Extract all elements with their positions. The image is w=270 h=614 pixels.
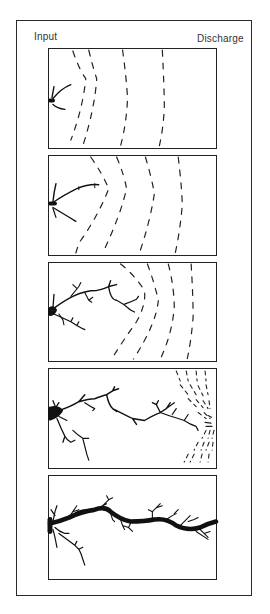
stage-5-drawing bbox=[49, 476, 216, 579]
channel-network bbox=[50, 85, 71, 110]
stage-panel-5 bbox=[48, 475, 217, 580]
discharge-label: Discharge bbox=[197, 33, 244, 44]
stage-panel-1 bbox=[48, 48, 217, 149]
equipotential-lines bbox=[176, 371, 214, 462]
channel-network bbox=[50, 387, 198, 460]
channel-network bbox=[50, 184, 99, 222]
equipotential-lines bbox=[112, 264, 194, 359]
stage-3-drawing bbox=[49, 263, 216, 361]
equipotential-lines bbox=[76, 157, 182, 253]
input-label: Input bbox=[34, 31, 57, 42]
channel-network bbox=[50, 281, 138, 330]
stage-panel-2 bbox=[48, 155, 217, 256]
stage-2-drawing bbox=[49, 156, 216, 255]
conduit-channel bbox=[50, 496, 216, 565]
stage-4-drawing bbox=[49, 369, 216, 468]
stage-panel-3 bbox=[48, 262, 217, 362]
stage-panel-4 bbox=[48, 368, 217, 469]
stage-1-drawing bbox=[49, 49, 216, 148]
equipotential-lines bbox=[71, 50, 164, 146]
